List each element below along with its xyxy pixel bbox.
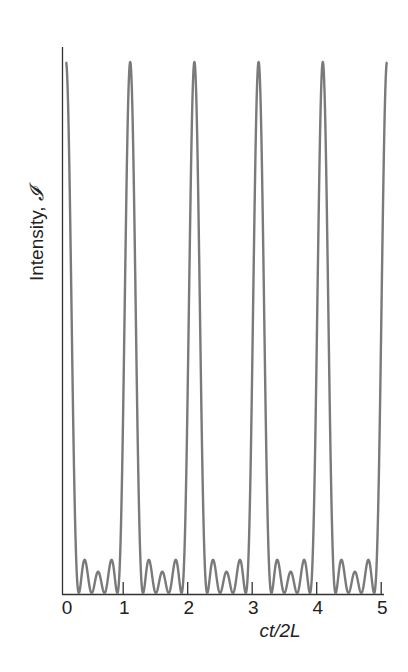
x-tick-label: 2 [183, 598, 194, 617]
y-axis-label: Intensity, 𝓘 [27, 188, 46, 281]
x-tick-label: 3 [248, 598, 259, 617]
x-axis-label: ct/2L [259, 621, 300, 640]
y-axis-label-symbol: 𝓘 [25, 188, 47, 201]
intensity-chart [0, 0, 408, 672]
x-ticks [123, 582, 381, 595]
y-axis-label-text: Intensity, [26, 201, 47, 281]
x-tick-label: 1 [119, 598, 130, 617]
x-tick-label: 5 [377, 598, 388, 617]
x-tick-label: 4 [312, 598, 323, 617]
x-tick-label: 0 [62, 598, 73, 617]
intensity-curve [66, 62, 387, 593]
